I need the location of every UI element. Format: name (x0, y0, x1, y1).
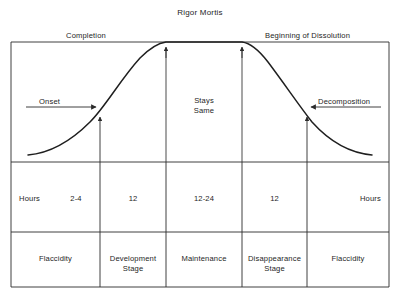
annotation-completion: Completion (66, 31, 106, 40)
annotation-decomposition: Decomposition (318, 97, 370, 106)
stage-cell-0-line-0: Flaccidity (11, 254, 100, 263)
page-title: Rigor Mortis (0, 8, 400, 17)
stage-cell-4-line-0: Flaccidity (307, 254, 389, 263)
hours-cell-3: 12 (242, 194, 307, 203)
hours-cell-1: 12 (100, 194, 166, 203)
stage-cell-3-line-1: Stage (241, 264, 308, 273)
stage-cell-2-line-0: Maintenance (166, 254, 242, 263)
hours-cell-0: 2-4 (58, 194, 94, 203)
diagram-canvas (0, 0, 400, 295)
hours-label-left: Hours (19, 194, 40, 203)
hours-cell-2: 12-24 (166, 194, 242, 203)
annotation-stays-same-line2: Same (166, 106, 242, 115)
stage-cell-1-line-1: Stage (100, 264, 166, 273)
rigor-mortis-diagram: Rigor Mortis Completion Beginning of Dis… (0, 0, 400, 295)
annotation-onset: Onset (39, 97, 60, 106)
hours-label-right: Hours (307, 194, 381, 203)
stage-cell-3-line-0: Disappearance (241, 254, 308, 263)
annotation-beginning-of-dissolution: Beginning of Dissolution (265, 31, 350, 40)
annotation-stays-same-line1: Stays (166, 96, 242, 105)
frame-lines (11, 42, 389, 287)
stage-cell-1-line-0: Development (100, 254, 166, 263)
